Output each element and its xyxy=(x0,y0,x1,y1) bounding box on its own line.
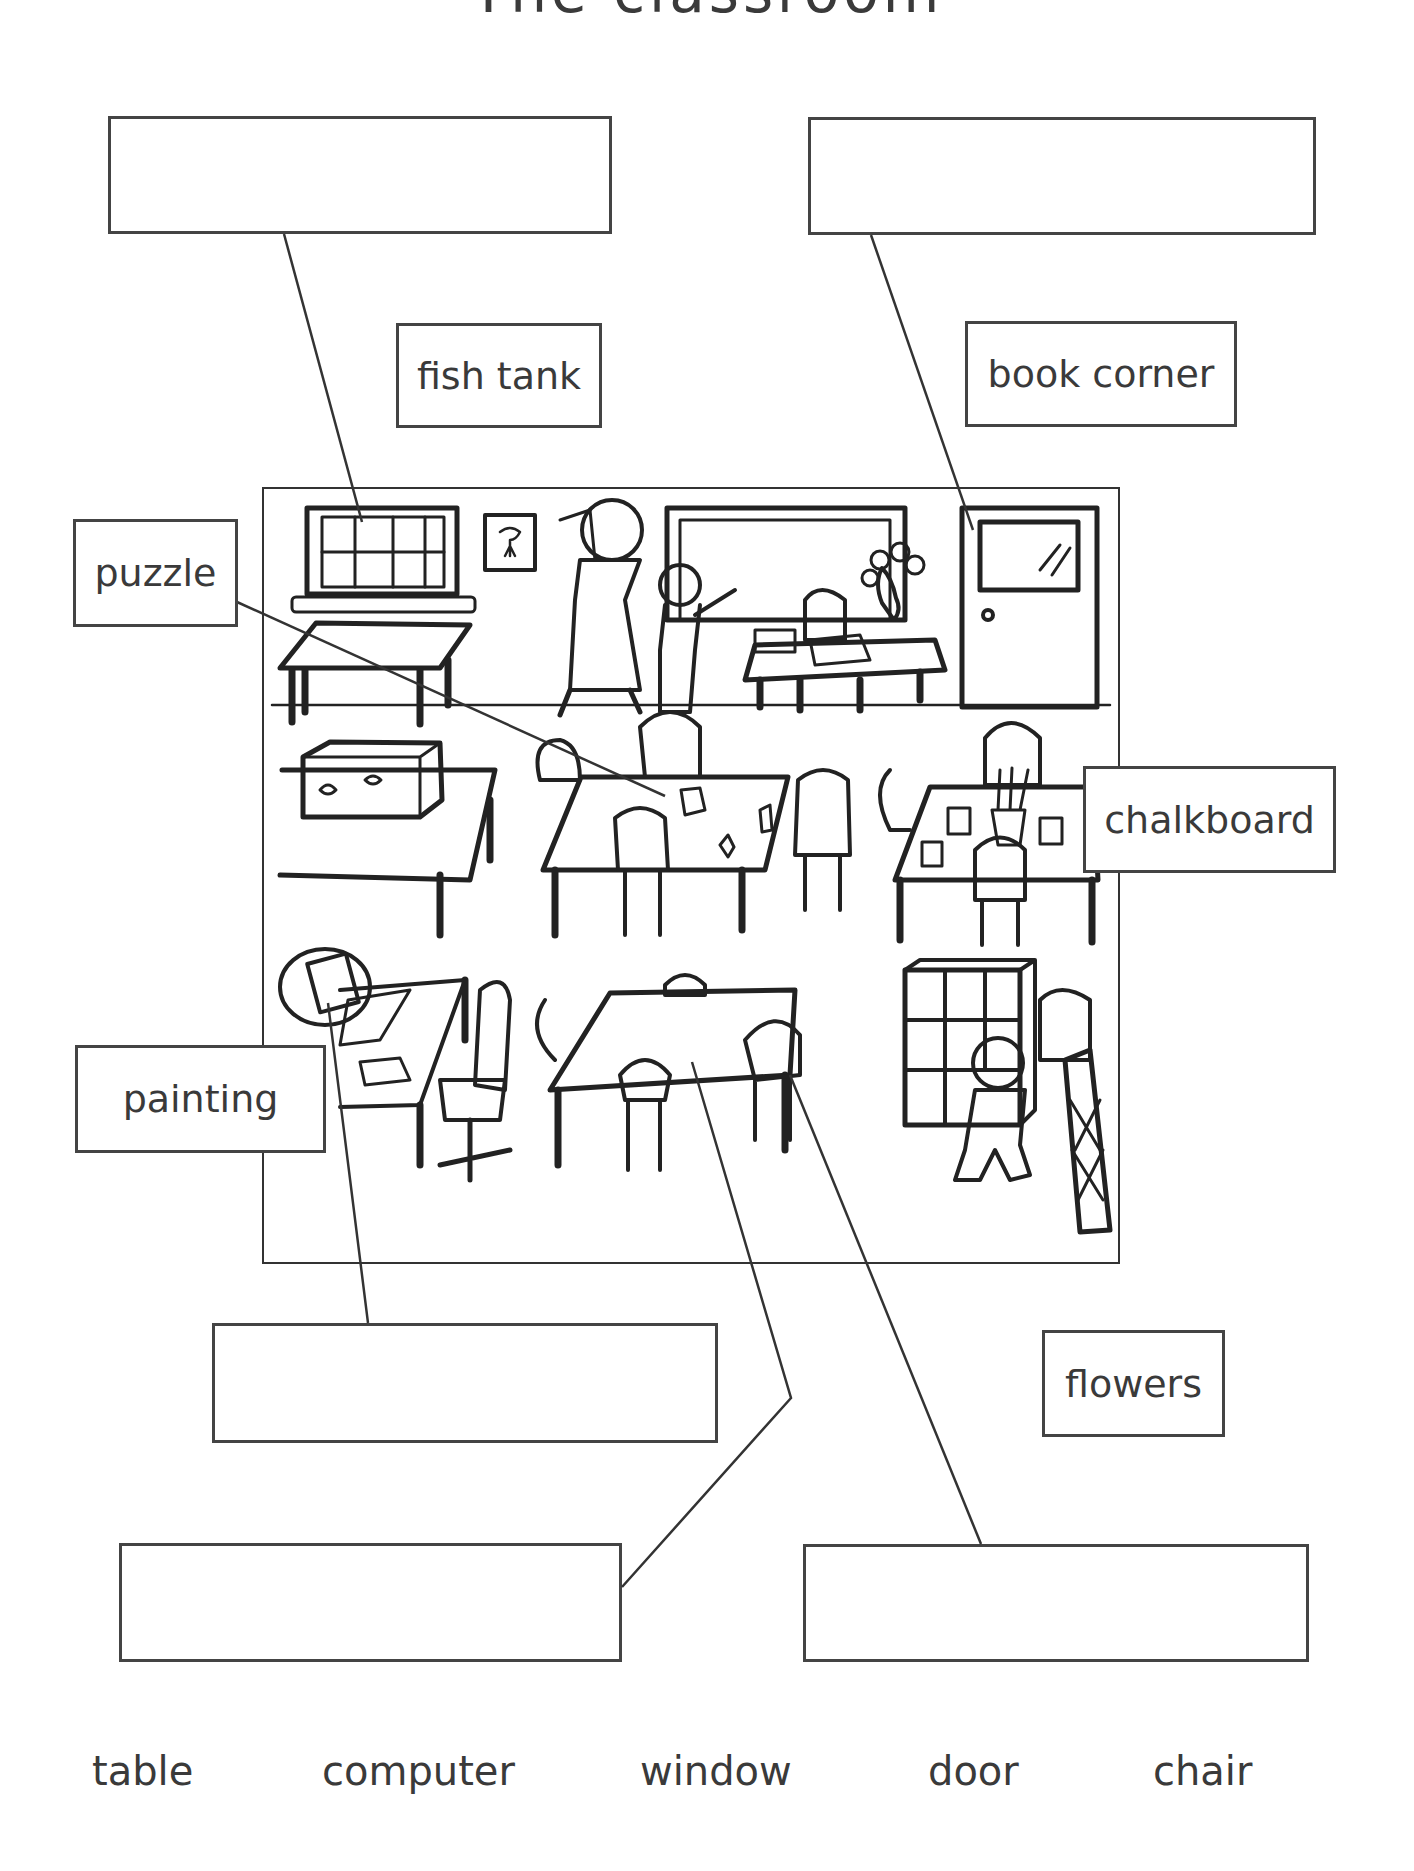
word-bank-item: chair xyxy=(1153,1748,1252,1794)
word-bank-item: table xyxy=(92,1748,193,1794)
label-flowers: flowers xyxy=(1042,1330,1225,1437)
connector-window xyxy=(284,234,362,522)
classroom-illustration xyxy=(262,487,1120,1264)
label-fish-tank: fish tank xyxy=(396,323,602,428)
answer-box-top-right[interactable] xyxy=(808,117,1316,235)
label-painting: painting xyxy=(75,1045,326,1153)
answer-box-top-left[interactable] xyxy=(108,116,612,234)
worksheet-title: The classroom xyxy=(0,0,1414,26)
label-book-corner: book corner xyxy=(965,321,1237,427)
answer-box-bottom-left[interactable] xyxy=(119,1543,622,1662)
answer-box-middle[interactable] xyxy=(212,1323,718,1443)
label-puzzle: puzzle xyxy=(73,519,238,627)
connector-door xyxy=(871,235,973,530)
answer-box-bottom-right[interactable] xyxy=(803,1544,1309,1662)
word-bank-item: door xyxy=(928,1748,1019,1794)
label-chalkboard: chalkboard xyxy=(1083,766,1336,873)
word-bank-item: window xyxy=(640,1748,792,1794)
word-bank-item: computer xyxy=(322,1748,515,1794)
